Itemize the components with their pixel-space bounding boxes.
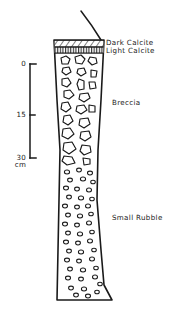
- unit-dark-calcite: [54, 40, 104, 47]
- unit-label-breccia: Breccia: [112, 99, 141, 107]
- stratigraphic-column-figure: Dark Calcite Light Calcite Breccia Small…: [0, 0, 178, 320]
- depth-scale-bar: [30, 64, 36, 158]
- scale-unit-label: cm: [8, 161, 26, 169]
- unit-label-small-rubble: Small Rubble: [112, 214, 163, 222]
- scale-tick-label-15: 15: [8, 111, 26, 119]
- unit-label-light-calcite: Light Calcite: [106, 47, 155, 55]
- scale-tick-label-0: 0: [12, 60, 26, 68]
- overburden-curve-icon: [81, 11, 101, 40]
- unit-light-calcite: [54, 47, 104, 53]
